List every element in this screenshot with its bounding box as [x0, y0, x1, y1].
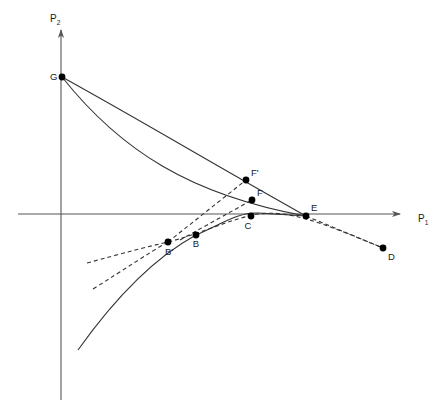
dashed-tangent-lower-left	[93, 242, 168, 289]
point-marker-g	[59, 74, 66, 81]
point-marker-c	[248, 213, 255, 220]
point-label-bp: B'	[165, 246, 173, 257]
point-marker-e	[303, 213, 310, 220]
point-marker-d	[380, 245, 387, 252]
point-label-f: F	[257, 187, 263, 198]
y-axis-label: P2	[50, 13, 61, 26]
point-marker-bp	[165, 239, 172, 246]
point-label-g: G	[50, 71, 57, 82]
axis-labels-group: P1 P2	[50, 13, 429, 226]
dashed-curve-Bprime-to-D	[87, 213, 383, 263]
outer-curve-G-to-E	[62, 77, 306, 216]
point-label-b: B	[193, 238, 199, 249]
point-label-e: E	[311, 202, 317, 213]
point-label-fp: F'	[251, 167, 259, 178]
point-marker-fp	[243, 177, 250, 184]
dashed-line-B-to-F	[180, 200, 252, 240]
solid-hump-curve	[78, 213, 306, 350]
point-label-c: C	[245, 220, 252, 231]
axes-group	[18, 30, 400, 400]
dashed-line-Bprime-to-Fprime	[168, 180, 246, 242]
point-marker-f	[249, 197, 256, 204]
x-axis-label: P1	[418, 213, 429, 226]
figure-canvas: GF'FECBB'D P1 P2	[0, 0, 438, 409]
point-label-d: D	[388, 251, 395, 262]
diagram-svg: GF'FECBB'D P1 P2	[0, 0, 438, 409]
